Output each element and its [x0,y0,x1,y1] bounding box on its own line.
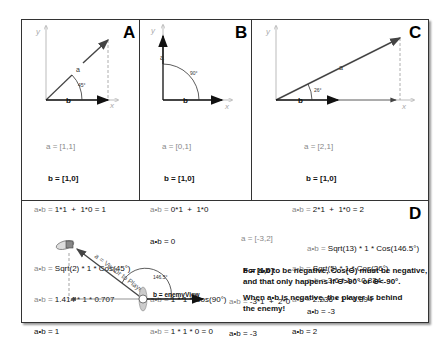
dot-product-diagram: A a 45° b y x a = [1,1] b = [1,0] [21,19,429,323]
angle-label: 146.5° [153,274,168,280]
vector-a-label: a = Vector to Player [93,252,147,296]
vector-a [77,249,143,299]
player-icon [55,239,74,251]
explanation-note-behind: When a•b is negative, the player is behi… [243,292,402,314]
enemy-icon [139,287,147,311]
vector-b-label: b = enemyView [153,291,201,299]
explanation-note-cos: For a•b to be negative, Cos(Θ) must be n… [243,265,427,287]
